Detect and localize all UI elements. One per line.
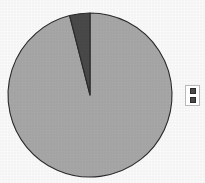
chart-legend[interactable] bbox=[185, 85, 200, 106]
legend-swatch-series-2-icon bbox=[190, 97, 196, 103]
pie-chart-figure bbox=[0, 0, 205, 183]
pie-chart-canvas bbox=[0, 0, 205, 183]
pie-slices-group bbox=[8, 13, 172, 177]
legend-item-series-1[interactable] bbox=[186, 88, 199, 95]
legend-swatch-series-1-icon bbox=[190, 88, 196, 94]
legend-item-series-2[interactable] bbox=[186, 96, 199, 103]
